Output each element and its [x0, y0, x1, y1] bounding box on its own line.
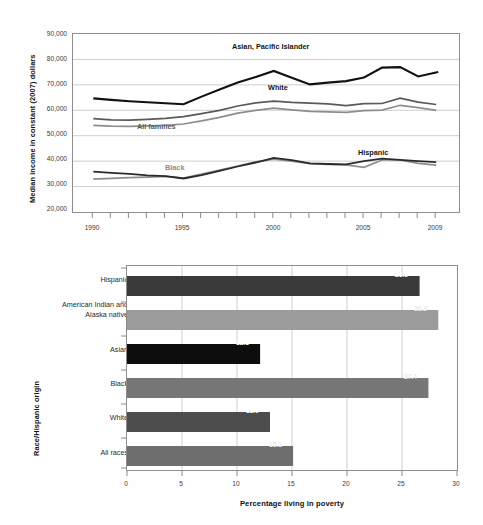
bar-x-tick-5: 5: [167, 480, 195, 487]
bar-x-tick-30: 30: [442, 480, 470, 487]
bar-category-label-white: White: [40, 413, 128, 423]
series-black: [93, 159, 436, 179]
bar-plot-svg: [127, 266, 457, 470]
line-x-tick-1995: 1995: [167, 224, 197, 231]
series-label-hispanic: Hispanic: [358, 148, 388, 157]
line-x-tick-marks: [72, 213, 462, 219]
bar-white: [127, 412, 270, 432]
figure-page: Median income in constant (2007) dollars…: [0, 0, 483, 525]
line-x-tick-1990: 1990: [77, 224, 107, 231]
bar-x-tick-0: 0: [112, 480, 140, 487]
line-y-tick-90000: 90,000: [30, 30, 67, 37]
bar-x-tick-25: 25: [387, 480, 415, 487]
bar-chart-x-axis-title: Percentage living in poverty: [126, 499, 458, 508]
line-y-tick-70000: 70,000: [30, 80, 67, 87]
bar-x-tick-marks: [126, 471, 460, 477]
bar-x-tick-15: 15: [277, 480, 305, 487]
line-x-tick-2009: 2009: [420, 224, 450, 231]
bar-asian: [127, 344, 260, 364]
income-line-chart: Median income in constant (2007) dollars…: [0, 0, 483, 252]
line-y-tick-80000: 80,000: [30, 55, 67, 62]
bar-category-label-american-indian: American Indian andAlaska native: [12, 300, 128, 319]
series-label-black: Black: [165, 163, 184, 172]
bar-value-american-indian: 28.3: [414, 305, 427, 312]
series-asian-pacific-islander: [93, 67, 438, 104]
series-label-white: White: [268, 83, 288, 92]
bar-hispanic: [127, 276, 420, 296]
bar-x-tick-10: 10: [222, 480, 250, 487]
line-y-tick-50000: 50,000: [30, 130, 67, 137]
line-y-tick-30000: 30,000: [30, 180, 67, 187]
bar-category-label-all-races: All races: [40, 448, 128, 458]
line-y-tick-20000: 20,000: [30, 205, 67, 212]
line-plot-area: [72, 33, 460, 213]
series-label-asian-pacific-islander: Asian, Pacific Islander: [232, 42, 309, 51]
line-x-tick-2000: 2000: [258, 224, 288, 231]
bar-category-label-hispanic: Hispanic: [40, 275, 128, 285]
poverty-bar-chart: Race/Hispanic origin Hispanic American I…: [0, 256, 483, 525]
bar-black: [127, 378, 428, 398]
gridlines: [73, 59, 459, 186]
bar-value-all-races: 15.1: [269, 441, 282, 448]
bar-american-indian: [127, 310, 438, 330]
line-x-tick-2005: 2005: [348, 224, 378, 231]
line-y-tick-40000: 40,000: [30, 155, 67, 162]
series-label-all-families: All families: [137, 122, 176, 131]
bar-value-asian: 12.1: [236, 339, 249, 346]
bar-value-hispanic: 26.6: [395, 271, 408, 278]
bar-value-black: 27.4: [404, 373, 417, 380]
bar-x-tick-20: 20: [332, 480, 360, 487]
bar-category-label-black: Black: [40, 379, 128, 389]
bar-all-races: [127, 446, 293, 466]
line-plot-svg: [73, 34, 459, 212]
bar-category-label-asian: Asian: [40, 345, 128, 355]
bar-plot-area: [126, 265, 458, 471]
bar-y-tick-marks: [120, 265, 127, 471]
line-y-tick-60000: 60,000: [30, 105, 67, 112]
bar-value-white: 13.0: [246, 407, 259, 414]
gridlines: [182, 266, 402, 470]
